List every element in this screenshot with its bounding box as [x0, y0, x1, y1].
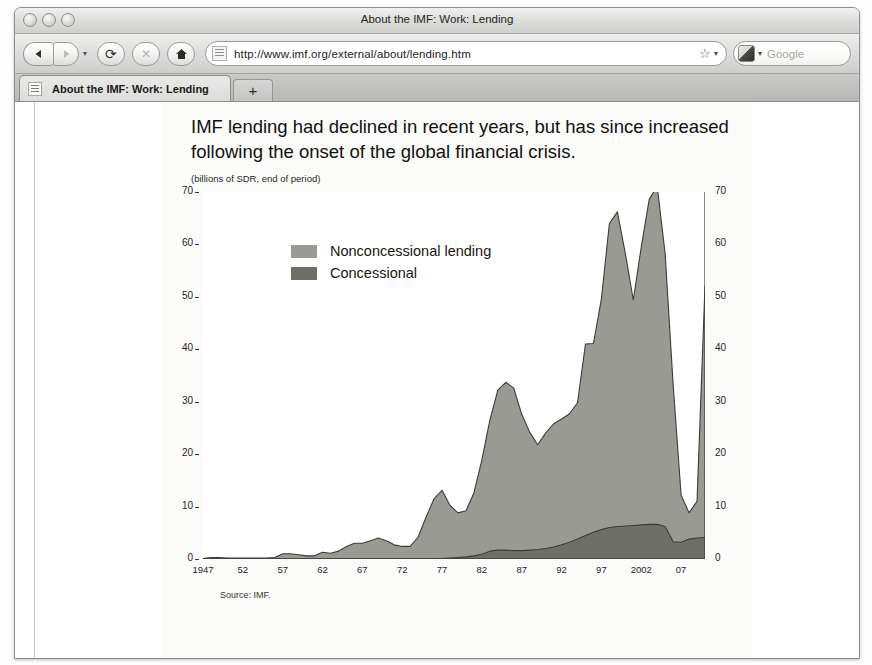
- history-dropdown-caret-icon[interactable]: ▾: [83, 49, 87, 58]
- tab-label: About the IMF: Work: Lending: [52, 83, 209, 95]
- home-button[interactable]: [167, 42, 195, 66]
- new-tab-button[interactable]: +: [233, 79, 273, 101]
- x-axis-tick-label: 2002: [619, 564, 663, 575]
- page-viewport: IMF lending had declined in recent years…: [15, 102, 859, 658]
- y-axis-left-tick: [195, 402, 199, 403]
- y-axis-right-tick-label: 40: [715, 342, 745, 353]
- chart-legend: Nonconcessional lending Concessional: [291, 243, 491, 287]
- plus-icon: +: [249, 83, 258, 98]
- legend-swatch-concessional: [291, 267, 317, 280]
- y-axis-left-tick: [195, 559, 199, 560]
- x-axis-tick-label: 1947: [181, 564, 225, 575]
- home-icon: [175, 48, 188, 60]
- chart-plot-area: 010203040506070 010203040506070 19475257…: [203, 192, 705, 559]
- y-axis-right-tick-label: 20: [715, 447, 745, 458]
- search-engine-icon[interactable]: [738, 45, 755, 62]
- tab-about-the-imf-work-lending[interactable]: About the IMF: Work: Lending: [19, 75, 231, 101]
- legend-label-nonconcessional: Nonconcessional lending: [330, 243, 491, 259]
- search-bar[interactable]: ▾ Google: [733, 41, 851, 66]
- x-axis-tick-label: 52: [221, 564, 265, 575]
- y-axis-left-tick: [195, 297, 199, 298]
- x-axis-tick-label: 57: [261, 564, 305, 575]
- x-axis-tick-label: 87: [500, 564, 544, 575]
- y-axis-left-tick-label: 0: [167, 552, 193, 563]
- search-input[interactable]: Google: [767, 48, 804, 60]
- x-axis-tick-label: 07: [659, 564, 703, 575]
- y-axis-right-tick-label: 0: [715, 552, 745, 563]
- chart-title: IMF lending had declined in recent years…: [191, 114, 736, 164]
- y-axis-left-tick: [195, 349, 199, 350]
- chart-subtitle: (billions of SDR, end of period): [191, 173, 320, 184]
- legend-item-concessional: Concessional: [291, 265, 491, 281]
- chart-source-note: Source: IMF.: [220, 590, 271, 600]
- stop-button[interactable]: ✕: [132, 42, 160, 66]
- browser-toolbar: ▾ ⟳ ✕ http://www.imf.org/external/about/…: [15, 34, 859, 74]
- x-axis-tick-label: 82: [460, 564, 504, 575]
- legend-item-nonconcessional: Nonconcessional lending: [291, 243, 491, 259]
- site-favicon-icon: [212, 46, 227, 61]
- y-axis-left-tick: [195, 507, 199, 508]
- reload-icon: ⟳: [105, 47, 117, 61]
- y-axis-left-tick-label: 50: [167, 290, 193, 301]
- close-icon: ✕: [141, 48, 151, 60]
- y-axis-left-tick-label: 20: [167, 447, 193, 458]
- url-text: http://www.imf.org/external/about/lendin…: [234, 48, 695, 60]
- chart-figure: IMF lending had declined in recent years…: [162, 102, 752, 658]
- y-axis-right-tick-label: 30: [715, 395, 745, 406]
- navigation-buttons: ▾ ⟳ ✕: [23, 42, 195, 66]
- window-title: About the IMF: Work: Lending: [15, 13, 859, 25]
- y-axis-left-tick: [195, 454, 199, 455]
- y-axis-right-tick-label: 50: [715, 290, 745, 301]
- y-axis-left-tick: [195, 244, 199, 245]
- y-axis-right-tick-label: 70: [715, 185, 745, 196]
- y-axis-left-tick-label: 10: [167, 500, 193, 511]
- y-axis-left-tick: [195, 192, 199, 193]
- y-axis-left-tick-label: 30: [167, 395, 193, 406]
- legend-label-concessional: Concessional: [330, 265, 417, 281]
- tab-strip: About the IMF: Work: Lending +: [15, 74, 859, 102]
- search-engine-caret-icon[interactable]: ▾: [758, 49, 762, 58]
- x-axis-tick-label: 72: [380, 564, 424, 575]
- x-axis-tick-label: 67: [340, 564, 384, 575]
- x-axis-tick-label: 77: [420, 564, 464, 575]
- address-bar[interactable]: http://www.imf.org/external/about/lendin…: [205, 41, 727, 66]
- forward-button[interactable]: [53, 42, 79, 66]
- screenshot-root: About the IMF: Work: Lending ▾ ⟳ ✕: [0, 0, 872, 665]
- browser-window: About the IMF: Work: Lending ▾ ⟳ ✕: [14, 7, 860, 659]
- y-axis-left-tick-label: 40: [167, 342, 193, 353]
- legend-swatch-nonconcessional: [291, 245, 317, 258]
- x-axis-tick-label: 97: [579, 564, 623, 575]
- y-axis-right-tick-label: 60: [715, 237, 745, 248]
- page-left-rule: [34, 102, 35, 658]
- back-button[interactable]: [23, 42, 53, 66]
- y-axis-right-tick-label: 10: [715, 500, 745, 511]
- forward-arrow-icon: [61, 49, 71, 59]
- x-axis-tick-label: 62: [301, 564, 345, 575]
- bookmark-star-icon[interactable]: ☆: [699, 47, 711, 60]
- back-arrow-icon: [34, 49, 44, 59]
- x-axis-tick-label: 92: [540, 564, 584, 575]
- window-titlebar: About the IMF: Work: Lending: [15, 8, 859, 34]
- y-axis-left-tick-label: 60: [167, 237, 193, 248]
- reload-button[interactable]: ⟳: [97, 42, 125, 66]
- bookmark-dropdown-caret-icon[interactable]: ▾: [714, 49, 718, 58]
- tab-favicon-icon: [28, 82, 42, 96]
- y-axis-left-tick-label: 70: [167, 185, 193, 196]
